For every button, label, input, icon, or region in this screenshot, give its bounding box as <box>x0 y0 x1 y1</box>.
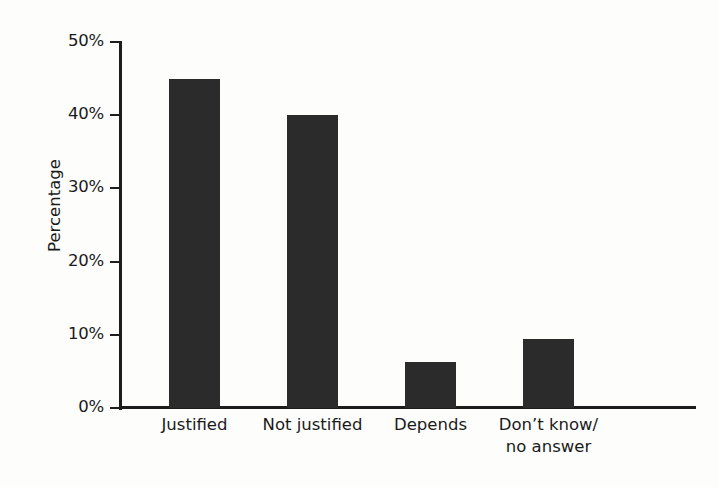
bar <box>169 79 220 408</box>
y-axis-title: Percentage <box>45 146 64 266</box>
bar-chart: 50%40%30%20%10%0% Percentage JustifiedNo… <box>0 0 719 487</box>
bar <box>287 115 338 408</box>
plot-area <box>120 42 695 408</box>
y-axis-tick-mark <box>110 114 120 116</box>
y-axis-tick-label: 40% <box>38 104 104 123</box>
y-axis-tick-mark <box>110 334 120 336</box>
y-axis-tick-label: 50% <box>38 31 104 50</box>
bar <box>523 339 574 408</box>
y-axis-tick-mark <box>110 261 120 263</box>
y-axis-tick-mark <box>110 407 120 409</box>
x-axis-category-label: Don’t know/ no answer <box>474 414 624 458</box>
y-axis-tick-label: 0% <box>38 397 104 416</box>
y-axis-tick-mark <box>110 187 120 189</box>
y-axis-tick-label: 10% <box>38 324 104 343</box>
y-axis-tick-mark <box>110 41 120 43</box>
bar <box>405 362 456 408</box>
